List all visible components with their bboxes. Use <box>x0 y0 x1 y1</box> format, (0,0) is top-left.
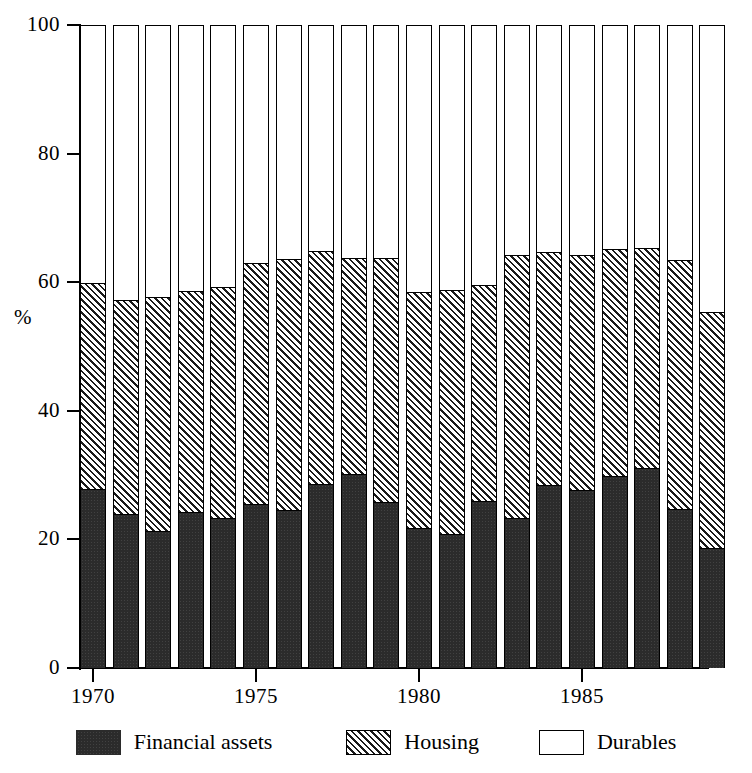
x-axis-tick <box>255 669 257 682</box>
bar-1981 <box>439 25 465 668</box>
x-axis-tick <box>418 669 420 682</box>
bar-segment-financial-assets <box>471 501 497 668</box>
bar-1989 <box>699 25 725 668</box>
bar-segment-financial-assets <box>308 484 334 668</box>
bar-segment-housing <box>145 297 171 531</box>
stacked-bar-chart: % 020406080100 1970197519801985 Financia… <box>0 0 752 773</box>
bar-segment-financial-assets <box>536 485 562 668</box>
bar-segment-financial-assets <box>667 509 693 668</box>
bar-segment-housing <box>471 285 497 501</box>
bar-1983 <box>504 25 530 668</box>
bar-segment-financial-assets <box>569 490 595 668</box>
bar-segment-housing <box>178 291 204 512</box>
bar-segment-financial-assets <box>699 548 725 668</box>
bar-segment-durables <box>341 25 367 258</box>
bar-segment-durables <box>373 25 399 258</box>
bar-segment-durables <box>276 25 302 259</box>
bar-1975 <box>243 25 269 668</box>
bar-1979 <box>373 25 399 668</box>
bar-segment-durables <box>504 25 530 255</box>
bar-segment-housing <box>276 259 302 510</box>
bar-segment-durables <box>406 25 432 292</box>
bar-1973 <box>178 25 204 668</box>
bar-segment-housing <box>634 248 660 468</box>
bar-segment-durables <box>667 25 693 260</box>
bar-segment-housing <box>113 300 139 514</box>
bar-1988 <box>667 25 693 668</box>
empty-swatch-icon <box>539 730 584 755</box>
bar-segment-durables <box>178 25 204 291</box>
y-axis-tick-label: 0 <box>0 657 60 678</box>
bar-1970 <box>80 25 106 668</box>
hatched-swatch-icon <box>346 730 391 755</box>
bar-segment-financial-assets <box>634 468 660 668</box>
bar-segment-housing <box>210 287 236 517</box>
x-axis-tick <box>92 669 94 682</box>
bar-1978 <box>341 25 367 668</box>
bar-segment-housing <box>504 255 530 517</box>
bar-segment-durables <box>439 25 465 290</box>
bar-segment-durables <box>536 25 562 252</box>
y-axis-tick <box>67 410 80 412</box>
bar-segment-financial-assets <box>504 518 530 668</box>
bar-segment-durables <box>569 25 595 255</box>
bar-segment-financial-assets <box>373 502 399 668</box>
bar-segment-durables <box>634 25 660 248</box>
bar-1985 <box>569 25 595 668</box>
bar-segment-durables <box>243 25 269 263</box>
bar-segment-financial-assets <box>276 510 302 668</box>
legend-label-housing: Housing <box>404 731 479 753</box>
bar-segment-housing <box>243 263 269 504</box>
bar-segment-durables <box>210 25 236 287</box>
bar-segment-housing <box>699 312 725 548</box>
legend-item-housing: Housing <box>346 730 479 755</box>
bar-segment-durables <box>699 25 725 312</box>
bar-segment-housing <box>373 258 399 502</box>
x-axis-tick-label: 1980 <box>379 685 459 707</box>
solid-dark-swatch-icon <box>76 730 121 755</box>
bar-1977 <box>308 25 334 668</box>
bar-segment-housing <box>667 260 693 508</box>
bar-segment-housing <box>406 292 432 528</box>
x-axis-tick-label: 1975 <box>216 685 296 707</box>
plot-area <box>80 25 707 668</box>
bar-segment-housing <box>439 290 465 534</box>
bar-segment-housing <box>308 251 334 484</box>
bar-segment-financial-assets <box>113 514 139 668</box>
bar-segment-housing <box>80 283 106 489</box>
bar-1976 <box>276 25 302 668</box>
bar-segment-financial-assets <box>80 489 106 668</box>
y-axis-tick-label: 100 <box>0 14 60 35</box>
y-axis-tick-label: 80 <box>0 143 60 164</box>
bar-segment-financial-assets <box>243 504 269 668</box>
bar-1972 <box>145 25 171 668</box>
bar-segment-financial-assets <box>602 476 628 668</box>
bar-1986 <box>602 25 628 668</box>
y-axis-tick-label: 60 <box>0 271 60 292</box>
bar-1974 <box>210 25 236 668</box>
bar-1987 <box>634 25 660 668</box>
y-axis-tick <box>67 24 80 26</box>
bar-segment-housing <box>341 258 367 475</box>
y-axis-tick-label: 20 <box>0 528 60 549</box>
bar-segment-durables <box>602 25 628 249</box>
legend-item-financial-assets: Financial assets <box>76 730 273 755</box>
bar-segment-financial-assets <box>439 534 465 668</box>
bar-1980 <box>406 25 432 668</box>
y-axis-tick <box>67 667 80 669</box>
legend-label-financial-assets: Financial assets <box>134 731 273 753</box>
bar-segment-durables <box>308 25 334 251</box>
bar-1982 <box>471 25 497 668</box>
x-axis-tick <box>581 669 583 682</box>
bar-segment-durables <box>80 25 106 283</box>
bar-1971 <box>113 25 139 668</box>
bar-segment-housing <box>536 252 562 485</box>
bar-segment-durables <box>113 25 139 300</box>
bar-1984 <box>536 25 562 668</box>
bar-segment-financial-assets <box>145 531 171 668</box>
bar-segment-financial-assets <box>178 512 204 668</box>
y-axis-tick <box>67 153 80 155</box>
legend-label-durables: Durables <box>597 731 676 753</box>
y-axis-tick <box>67 538 80 540</box>
y-axis-tick <box>67 281 80 283</box>
